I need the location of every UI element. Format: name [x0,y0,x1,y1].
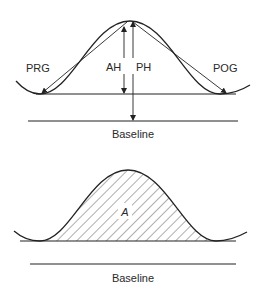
prg-label: PRG [26,62,50,74]
area-label: A [120,206,128,218]
area-hatch [30,160,240,250]
bottom-area-diagram: A Baseline [14,160,247,284]
pog-arrow [133,22,226,93]
prg-arrow [42,22,127,93]
ah-label: AH [106,61,121,73]
peak-diagram: PRG AH PH POG Baseline A Baseline [0,0,266,289]
pog-label: POG [213,62,237,74]
top-peak-diagram: PRG AH PH POG Baseline [16,21,250,140]
top-baseline-label: Baseline [112,128,154,140]
ph-label: PH [136,61,151,73]
bottom-baseline-label: Baseline [112,272,154,284]
